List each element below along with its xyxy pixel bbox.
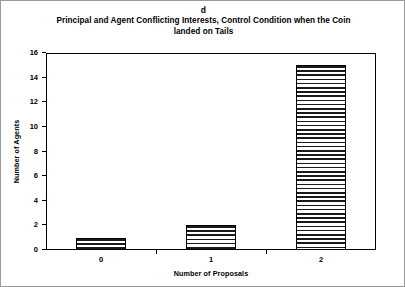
bar	[296, 65, 347, 250]
chart-figure: d Principal and Agent Conflicting Intere…	[0, 0, 405, 287]
bar	[76, 238, 127, 250]
y-axis-tick-label: 0	[34, 245, 38, 254]
x-axis-tick-label: 1	[209, 255, 213, 265]
y-axis: 0246810121416	[1, 53, 46, 250]
x-axis-tick-labels: 012	[46, 255, 376, 267]
panel-label: d	[1, 5, 405, 15]
chart-title-line-1: Principal and Agent Conflicting Interest…	[56, 16, 350, 25]
y-axis-tick-label: 6	[34, 171, 38, 180]
x-axis-tick-mark	[156, 250, 157, 254]
y-axis-tick-label: 14	[30, 73, 38, 82]
x-axis-tick-label: 2	[319, 255, 323, 265]
bar	[186, 225, 237, 250]
y-axis-tick-label: 4	[34, 196, 38, 205]
y-axis-tick-label: 16	[30, 48, 38, 57]
y-axis-tick-label: 12	[30, 97, 38, 106]
bar-series	[46, 53, 376, 250]
y-axis-tick-label: 2	[34, 220, 38, 229]
y-axis-tick-label: 8	[34, 147, 38, 156]
x-axis-tick-label: 0	[99, 255, 103, 265]
x-axis-tick-mark	[266, 250, 267, 254]
chart-title-line-2: landed on Tails	[31, 27, 376, 38]
chart-title: Principal and Agent Conflicting Interest…	[31, 16, 376, 37]
x-axis-title: Number of Proposals	[46, 269, 376, 279]
y-axis-tick-label: 10	[30, 122, 38, 131]
